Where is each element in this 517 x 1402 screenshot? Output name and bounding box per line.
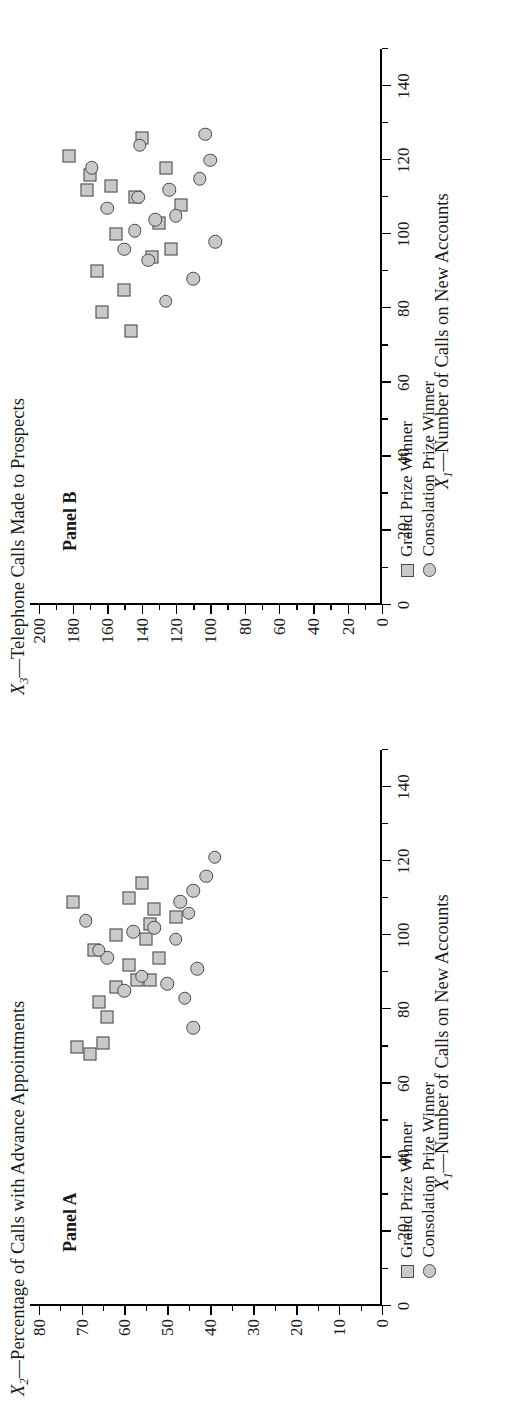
data-point-consolation — [186, 1021, 200, 1035]
data-point-consolation — [178, 992, 192, 1006]
data-point-consolation — [126, 925, 140, 939]
circle-marker-icon — [423, 1265, 437, 1279]
data-point-consolation — [204, 153, 218, 167]
panel-a-y-var-sub: 2 — [17, 1378, 31, 1384]
panel-b-y-title-text: —Telephone Calls Made to Prospects — [8, 398, 28, 677]
y-tick — [245, 605, 246, 614]
y-tick-label: 140 — [133, 618, 150, 644]
data-point-grand — [84, 1047, 97, 1060]
data-point-grand — [125, 324, 138, 337]
x-tick-label: 0 — [395, 601, 412, 610]
y-tick-minor — [146, 1306, 147, 1312]
x-tick — [382, 860, 391, 861]
panel-b-legend-item-grand: Grand Prize Winner — [396, 381, 418, 577]
y-tick-minor — [159, 605, 160, 611]
x-tick-label: 120 — [395, 848, 412, 874]
data-point-consolation — [193, 172, 207, 186]
data-point-grand — [164, 243, 177, 256]
data-point-grand — [122, 892, 135, 905]
data-point-consolation — [191, 962, 205, 976]
x-tick-label: 0 — [395, 1302, 412, 1311]
panel-b-legend-item-consolation: Consolation Prize Winner — [418, 381, 440, 577]
panel-a-y-var: X — [8, 1385, 28, 1396]
y-tick — [296, 1306, 297, 1315]
panel-b-y-var: X — [8, 684, 28, 695]
y-tick-label: 30 — [245, 1319, 262, 1336]
data-point-grand — [109, 929, 122, 942]
x-tick — [382, 159, 391, 160]
data-point-grand — [135, 877, 148, 890]
x-tick-label: 100 — [395, 222, 412, 248]
panel-a: X2—Percentage of Calls with Advance Appo… — [0, 701, 517, 1402]
x-tick-label: 140 — [395, 774, 412, 800]
y-tick-minor — [56, 605, 57, 611]
data-point-consolation — [198, 128, 212, 142]
data-point-consolation — [199, 869, 213, 883]
panel-a-plot-area: 01020304050607080 020406080100120140 — [30, 750, 382, 1306]
data-point-grand — [101, 1010, 114, 1023]
data-point-consolation — [161, 977, 175, 991]
data-point-consolation — [101, 202, 115, 216]
x-tick — [382, 1156, 391, 1157]
y-tick-minor — [60, 1306, 61, 1312]
x-tick — [382, 529, 391, 530]
x-tick-minor — [382, 492, 388, 493]
data-point-consolation — [118, 984, 132, 998]
y-tick — [82, 1306, 83, 1315]
y-tick-label: 120 — [167, 618, 184, 644]
circle-marker-icon — [423, 564, 437, 578]
y-tick — [210, 1306, 211, 1315]
y-tick — [382, 605, 383, 614]
x-tick-label: 80 — [395, 1001, 412, 1018]
y-tick-minor — [330, 605, 331, 611]
y-tick-label: 40 — [305, 618, 322, 635]
y-tick — [348, 605, 349, 614]
panel-b: X3—Telephone Calls Made to Prospects Pan… — [0, 0, 517, 701]
panel-a-legend-item-consolation: Consolation Prize Winner — [418, 1082, 440, 1278]
data-point-consolation — [131, 191, 145, 205]
y-tick — [73, 605, 74, 614]
data-point-grand — [71, 1040, 84, 1053]
panel-b-plot-area: 020406080100120140160180200 020406080100… — [30, 49, 382, 605]
data-point-consolation — [159, 294, 173, 308]
panel-a-legend-item-grand: Grand Prize Winner — [396, 1082, 418, 1278]
data-point-grand — [96, 1036, 109, 1049]
x-tick-minor — [382, 344, 388, 345]
x-tick-minor — [382, 1045, 388, 1046]
y-tick — [167, 1306, 168, 1315]
y-tick-label: 80 — [30, 1319, 47, 1336]
y-tick-label: 0 — [374, 618, 391, 627]
y-tick-label: 50 — [159, 1319, 176, 1336]
x-tick-label: 80 — [395, 300, 412, 317]
square-marker-icon — [401, 1265, 414, 1278]
x-tick-minor — [382, 270, 388, 271]
panel-b-x-axis — [380, 49, 382, 605]
data-point-grand — [66, 895, 79, 908]
y-tick — [210, 605, 211, 614]
x-tick-minor — [382, 418, 388, 419]
data-point-grand — [96, 306, 109, 319]
x-tick — [382, 934, 391, 935]
panel-a-y-title-text: —Percentage of Calls with Advance Appoin… — [8, 1001, 28, 1379]
data-point-consolation — [148, 921, 162, 935]
data-point-consolation — [209, 235, 223, 249]
panel-b-legend: Grand Prize Winner Consolation Prize Win… — [396, 381, 441, 577]
data-point-consolation — [79, 914, 93, 928]
data-point-consolation — [169, 209, 183, 223]
x-tick-minor — [382, 971, 388, 972]
data-point-grand — [148, 903, 161, 916]
x-tick — [382, 85, 391, 86]
panel-a-x-axis — [380, 750, 382, 1306]
y-tick-label: 80 — [236, 618, 253, 635]
data-point-consolation — [186, 884, 200, 898]
figure-canvas: X2—Percentage of Calls with Advance Appo… — [0, 0, 517, 1402]
data-point-grand — [90, 265, 103, 278]
y-tick-label: 60 — [270, 618, 287, 635]
y-tick-minor — [275, 1306, 276, 1312]
y-tick — [124, 1306, 125, 1315]
x-tick — [382, 604, 391, 605]
y-tick-label: 10 — [331, 1319, 348, 1336]
data-point-consolation — [173, 895, 187, 909]
y-tick-label: 160 — [99, 618, 116, 644]
x-tick-minor — [382, 567, 388, 568]
